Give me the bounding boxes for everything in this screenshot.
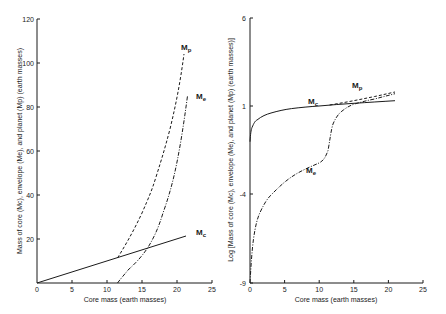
right-x-tick-25: 25 — [419, 286, 427, 293]
right-y-ticks: 6 1 -4 -9 — [240, 15, 253, 287]
right-y-axis-label: Log [Mass of core (Mc), envelope (Me), a… — [227, 38, 235, 262]
left-x-tick-20: 20 — [173, 286, 181, 293]
left-label-mc: Mc — [196, 228, 207, 238]
left-axes — [37, 19, 212, 283]
right-chart: 6 1 -4 -9 0 5 10 15 20 25 Core mass (ear… — [227, 15, 427, 304]
left-series-mc — [37, 236, 186, 283]
left-x-tick-5: 5 — [70, 286, 74, 293]
left-chart: 120 100 80 60 40 20 0 5 10 15 20 25 Core… — [16, 16, 216, 304]
right-x-tick-20: 20 — [385, 286, 393, 293]
left-x-tick-15: 15 — [138, 286, 146, 293]
right-y-tick-1: 1 — [242, 103, 246, 110]
right-y-tick-minus4: -4 — [240, 191, 246, 198]
right-label-me: Me — [306, 166, 317, 176]
right-label-mp: Mp — [352, 81, 363, 91]
left-x-tick-0: 0 — [35, 286, 39, 293]
chart-canvas: 120 100 80 60 40 20 0 5 10 15 20 25 Core… — [0, 0, 446, 314]
left-y-axis-label: Mass of core (Mc), envelope (Me), and pl… — [16, 48, 24, 254]
left-series-mp — [118, 54, 185, 258]
right-x-axis-label: Core mass (earth masses) — [295, 296, 377, 304]
right-x-ticks: 0 5 10 15 20 25 — [248, 280, 427, 293]
right-label-mc: Mc — [308, 97, 319, 107]
left-y-tick-120: 120 — [22, 16, 34, 23]
right-y-tick-minus9: -9 — [240, 280, 246, 287]
left-y-tick-40: 40 — [26, 192, 34, 199]
left-label-mp: Mp — [181, 43, 192, 53]
left-series-me — [118, 96, 188, 283]
left-y-tick-60: 60 — [26, 148, 34, 155]
right-y-tick-6: 6 — [242, 15, 246, 22]
right-series-mc — [250, 101, 395, 142]
left-x-ticks: 0 5 10 15 20 25 — [35, 280, 216, 293]
left-y-tick-100: 100 — [22, 60, 34, 67]
left-y-tick-80: 80 — [26, 104, 34, 111]
left-x-axis-label: Core mass (earth masses) — [84, 296, 166, 304]
left-x-tick-25: 25 — [208, 286, 216, 293]
right-x-tick-0: 0 — [248, 286, 252, 293]
right-series-me — [250, 94, 395, 283]
right-x-tick-15: 15 — [350, 286, 358, 293]
right-x-tick-10: 10 — [315, 286, 323, 293]
right-axes — [250, 18, 423, 283]
left-y-tick-20: 20 — [26, 236, 34, 243]
right-x-tick-5: 5 — [283, 286, 287, 293]
left-label-me: Me — [196, 92, 207, 102]
left-x-tick-10: 10 — [103, 286, 111, 293]
